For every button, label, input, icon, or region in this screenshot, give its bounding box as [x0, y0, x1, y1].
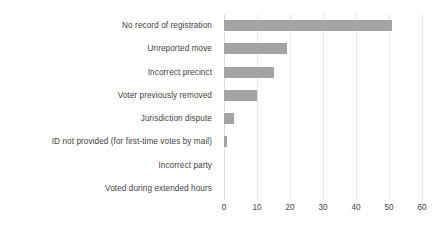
- bar-row: [224, 37, 422, 60]
- bar-row: [224, 107, 422, 130]
- category-label: Voted during extended hours: [0, 177, 218, 200]
- x-tick-label: 20: [285, 203, 294, 212]
- bar-row: [224, 14, 422, 37]
- plot-area: [224, 14, 422, 200]
- x-tick-label: 10: [252, 203, 261, 212]
- bar-row: [224, 154, 422, 177]
- category-label: Unreported move: [0, 37, 218, 60]
- category-label: Jurisdiction dispute: [0, 107, 218, 130]
- bar-series: [224, 14, 422, 200]
- bar-row: [224, 177, 422, 200]
- category-axis-labels: No record of registration Unreported mov…: [0, 14, 218, 200]
- x-tick-label: 50: [384, 203, 393, 212]
- bar-row: [224, 61, 422, 84]
- gridline: [422, 14, 423, 200]
- category-label: ID not provided (for first-time votes by…: [0, 130, 218, 153]
- bar-row: [224, 84, 422, 107]
- x-tick-label: 0: [222, 203, 227, 212]
- bar: [224, 113, 234, 124]
- x-tick-label: 40: [351, 203, 360, 212]
- bar: [224, 20, 392, 31]
- bar: [224, 90, 257, 101]
- category-label: Voter previously removed: [0, 84, 218, 107]
- bar: [224, 67, 274, 78]
- x-tick-label: 30: [318, 203, 327, 212]
- bar: [224, 136, 227, 147]
- category-label: No record of registration: [0, 14, 218, 37]
- bar-row: [224, 130, 422, 153]
- category-label: Incorrect party: [0, 154, 218, 177]
- x-tick-label: 60: [417, 203, 426, 212]
- bar-chart: No record of registration Unreported mov…: [0, 0, 448, 240]
- value-axis-labels: 0102030405060: [224, 203, 422, 219]
- bar: [224, 43, 287, 54]
- category-label: Incorrect precinct: [0, 61, 218, 84]
